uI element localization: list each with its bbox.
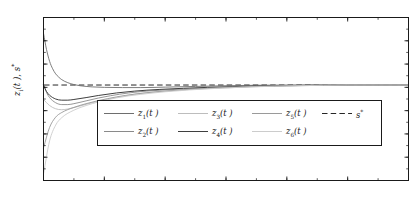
legend-label: z3(t )	[212, 108, 233, 120]
y-axis-label: zi(t ), s*	[10, 47, 24, 113]
legend-label: s*	[356, 108, 363, 120]
legend-label: z4(t )	[212, 126, 233, 138]
legend-label: z5(t )	[286, 108, 307, 120]
plot-background	[44, 18, 409, 181]
legend-label: z1(t )	[138, 108, 159, 120]
legend-label: z2(t )	[138, 126, 159, 138]
legend-label: z6(t )	[286, 126, 307, 138]
figure-canvas: z1(t )z3(t )z5(t )s*z2(t )z4(t )z6(t )zi…	[0, 0, 418, 214]
